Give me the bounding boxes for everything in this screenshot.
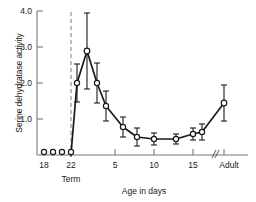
data-point-marker (94, 80, 99, 85)
data-point-marker (41, 149, 46, 154)
data-point-marker (84, 48, 90, 54)
chart-figure: Serine dehydratase activity 4.0 3.0 2.0 … (0, 0, 256, 202)
chart-plot-area (0, 0, 256, 202)
error-bars (68, 13, 227, 157)
axis-break-marker (212, 150, 219, 158)
data-point-marker (68, 149, 73, 154)
data-point-marker (59, 149, 64, 154)
data-line (71, 51, 224, 154)
data-markers (41, 48, 226, 154)
data-point-marker (50, 149, 55, 154)
data-point-marker (173, 136, 178, 141)
data-point-marker (74, 80, 79, 85)
data-point-marker (120, 124, 125, 129)
data-point-marker (190, 131, 195, 136)
axis-lines (37, 11, 248, 155)
data-point-marker (134, 134, 139, 139)
data-point-marker (221, 100, 227, 106)
data-point-marker (151, 136, 156, 141)
data-point-marker (199, 129, 204, 134)
data-point-marker (103, 103, 108, 108)
